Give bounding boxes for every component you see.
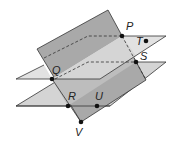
point-p xyxy=(120,34,125,39)
label-u: U xyxy=(95,90,103,102)
label-q: Q xyxy=(52,64,61,76)
point-u xyxy=(95,104,100,109)
point-t xyxy=(144,39,149,44)
point-s xyxy=(134,60,139,65)
label-v: V xyxy=(75,126,84,138)
label-s: S xyxy=(140,50,148,62)
planes-diagram: P Q R S T U V xyxy=(0,0,180,149)
point-v xyxy=(79,120,84,125)
upper-horizontal-plane-left xyxy=(16,65,52,79)
label-r: R xyxy=(68,90,76,102)
label-p: P xyxy=(126,20,134,32)
point-r xyxy=(66,104,71,109)
point-q xyxy=(50,77,55,82)
